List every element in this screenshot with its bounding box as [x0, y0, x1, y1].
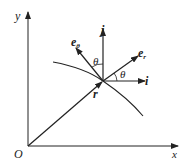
j-label: j — [99, 23, 105, 37]
y-axis-label: y — [14, 9, 21, 23]
theta-label-2: θ — [120, 68, 126, 80]
x-axis-label: x — [171, 148, 177, 160]
r-label: r — [93, 87, 98, 101]
origin-label: O — [14, 147, 23, 161]
e-theta-label: eθ — [71, 35, 80, 50]
polar-unit-vectors-diagram: O x y j i eθ er θ θ r — [0, 0, 189, 168]
e-r-label: er — [138, 46, 146, 61]
angle-arc-theta-2 — [114, 73, 117, 81]
theta-label-1: θ — [93, 55, 99, 67]
i-label: i — [145, 74, 149, 88]
diagram-canvas: O x y j i eθ er θ θ r — [0, 0, 189, 168]
position-vector-r — [28, 82, 102, 146]
trajectory-curve — [53, 62, 143, 116]
